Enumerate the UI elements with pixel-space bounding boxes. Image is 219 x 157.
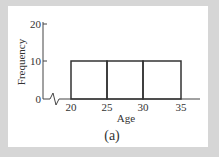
bar-20-25 — [71, 61, 107, 99]
figure-caption: (a) — [104, 128, 120, 144]
x-tick-label-20: 20 — [66, 101, 78, 113]
bar-30-35 — [143, 61, 181, 99]
y-tick-label-10: 10 — [30, 55, 42, 67]
histogram-bars — [71, 61, 181, 99]
x-tick-label-35: 35 — [176, 101, 188, 113]
y-tick-label-0: 0 — [36, 93, 42, 105]
bar-25-30 — [107, 61, 143, 99]
y-tick-label-20: 20 — [30, 18, 42, 30]
histogram-chart: 20 10 0 Frequency 20 25 30 35 Age (a) — [0, 0, 219, 157]
y-axis-label: Frequency — [15, 38, 27, 85]
x-axis-label: Age — [117, 112, 135, 124]
x-tick-label-30: 30 — [138, 101, 150, 113]
x-tick-label-25: 25 — [102, 101, 114, 113]
